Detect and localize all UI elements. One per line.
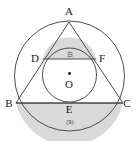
- center-point-dot: [68, 72, 71, 75]
- vertex-label-e: E: [63, 104, 75, 115]
- region-label-bottom-segment: (9): [59, 119, 81, 125]
- vertex-label-b: B: [3, 98, 15, 109]
- vertex-label-d: D: [29, 53, 41, 64]
- vertex-label-f: F: [96, 53, 108, 64]
- region-label-top-segment: 白: [59, 51, 81, 57]
- geometry-figure: A D F O B C E 白 (9): [0, 0, 138, 141]
- vertex-label-c: C: [121, 98, 133, 109]
- center-label-o: O: [63, 79, 75, 90]
- vertex-label-a: A: [63, 6, 75, 17]
